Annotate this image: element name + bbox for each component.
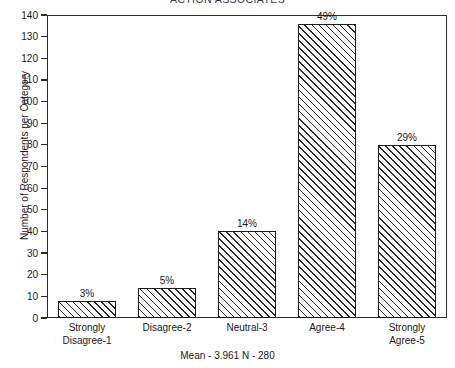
x-axis-category-label-line1: Agree-4 [309, 322, 345, 333]
bar: 3% [58, 301, 116, 318]
chart-footnote: Mean - 3.961 N - 280 [0, 350, 455, 361]
y-axis-tick-label: 120 [21, 51, 38, 66]
bar-value-label: 14% [237, 218, 257, 229]
y-axis-tick-label: 130 [21, 29, 38, 44]
y-axis-tick-label: 40 [27, 224, 38, 239]
bar-value-label: 49% [317, 11, 337, 22]
bar: 14% [218, 231, 276, 318]
y-axis-tick-label: 110 [22, 72, 38, 87]
y-axis-tick-label: 30 [27, 246, 38, 261]
bar: 49% [298, 24, 356, 318]
x-axis-category-label: Disagree-2 [127, 322, 207, 335]
x-axis-category-label: StronglyDisagree-1 [47, 322, 127, 347]
x-axis-category-label: Agree-4 [287, 322, 367, 335]
bar-value-label: 3% [80, 288, 94, 299]
bar-value-label: 5% [160, 275, 174, 286]
bar: 5% [138, 288, 196, 318]
y-axis-tick-label: 20 [27, 267, 38, 282]
bars-layer: 3%5%14%49%29% [47, 15, 447, 318]
x-axis-category-label: StronglyAgree-5 [367, 322, 447, 347]
y-axis-tick-label: 0 [32, 311, 38, 326]
x-axis-category-label-line1: Strongly [69, 322, 106, 333]
y-axis-tick-label: 60 [27, 181, 38, 196]
x-axis-category-label-line2: Disagree-1 [47, 335, 127, 348]
bar-value-label: 29% [397, 132, 417, 143]
y-axis-tick-label: 90 [27, 116, 38, 131]
bar: 29% [378, 145, 436, 318]
y-axis-tick-label: 140 [21, 8, 38, 23]
chart-title: ACTION ASSOCIATES [0, 0, 455, 5]
bar-chart: ACTION ASSOCIATES Number of Respondents … [0, 0, 455, 368]
x-axis-category-label-line1: Strongly [389, 322, 426, 333]
y-axis-tick-label: 50 [27, 202, 38, 217]
y-axis-tick-label: 100 [21, 94, 38, 109]
x-axis-category-label-line1: Disagree-2 [143, 322, 192, 333]
x-axis-category-label-line2: Agree-5 [367, 335, 447, 348]
y-axis-tick-label: 80 [27, 137, 38, 152]
y-axis-tick-label: 70 [27, 159, 38, 174]
x-axis-category-label-line1: Neutral-3 [226, 322, 267, 333]
y-axis-tick-label: 10 [27, 289, 38, 304]
x-axis-category-label: Neutral-3 [207, 322, 287, 335]
